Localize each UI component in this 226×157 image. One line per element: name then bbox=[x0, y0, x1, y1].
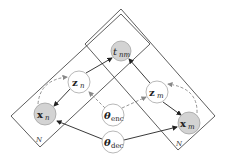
edge-zm-tnm bbox=[129, 59, 150, 83]
svg-text:x: x bbox=[180, 118, 187, 129]
svg-text:n: n bbox=[45, 114, 50, 122]
edge-thetaenc-zn bbox=[89, 92, 105, 108]
svg-text:nm: nm bbox=[119, 51, 131, 59]
edge-xn-zn-curved bbox=[38, 77, 67, 104]
svg-text:x: x bbox=[37, 109, 44, 120]
svg-text:enc: enc bbox=[111, 115, 124, 123]
svg-text:θ: θ bbox=[104, 137, 111, 148]
graphical-model-diagram: N N t nm z n z m x n x m θ enc bbox=[0, 0, 226, 157]
node-z-m: z m bbox=[146, 81, 168, 103]
node-x-m: x m bbox=[178, 112, 200, 134]
svg-text:m: m bbox=[157, 92, 164, 100]
node-theta-enc: θ enc bbox=[102, 104, 124, 126]
edge-thetadec-xn bbox=[57, 121, 102, 139]
svg-text:n: n bbox=[80, 82, 85, 90]
edge-zn-xn bbox=[54, 89, 70, 106]
svg-text:dec: dec bbox=[111, 142, 124, 150]
edge-thetadec-xm bbox=[124, 127, 177, 140]
node-x-n: x n bbox=[34, 103, 56, 125]
svg-text:z: z bbox=[72, 77, 78, 88]
edge-zm-xm bbox=[163, 102, 181, 115]
node-z-n: z n bbox=[68, 71, 90, 93]
node-theta-dec: θ dec bbox=[102, 131, 124, 153]
edge-thetaenc-zm bbox=[122, 97, 146, 108]
svg-text:z: z bbox=[149, 87, 155, 98]
plate-m-label: N bbox=[175, 140, 183, 148]
svg-text:m: m bbox=[188, 123, 195, 131]
svg-text:θ: θ bbox=[104, 110, 111, 121]
plate-n-label: N bbox=[35, 136, 43, 144]
node-t-nm: t nm bbox=[111, 41, 131, 61]
